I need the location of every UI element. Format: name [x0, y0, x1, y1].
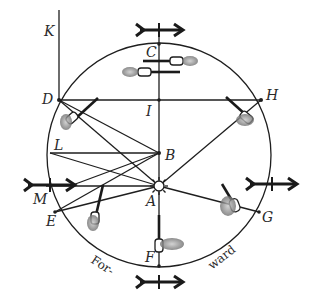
line-m-b: [70, 153, 159, 186]
candle-flame-icon: [155, 215, 184, 252]
sail-diagram: K C D H I L B M A E G F For- ward: [0, 0, 314, 306]
line-e-a: [55, 186, 159, 212]
line-a-g: [159, 186, 259, 212]
label-b: B: [164, 147, 175, 163]
label-c: C: [146, 44, 157, 60]
point-c: [157, 42, 161, 46]
candle-flame-icon: [220, 184, 241, 216]
line-l-a: [50, 153, 159, 186]
caption-ward: ward: [205, 242, 238, 272]
point-b: [157, 151, 161, 155]
label-d: D: [41, 91, 53, 107]
candle-flame-icon: [226, 97, 254, 126]
point-d: [57, 98, 61, 102]
label-k: K: [43, 23, 56, 39]
label-m: M: [32, 191, 48, 207]
point-g: [257, 210, 261, 214]
label-h: H: [265, 87, 279, 103]
label-l: L: [53, 137, 63, 153]
label-f: F: [144, 249, 156, 265]
line-d-b: [59, 100, 159, 153]
label-e: E: [45, 213, 56, 229]
candle-flame-icon: [60, 98, 98, 130]
wind-arrow-left: [24, 178, 75, 192]
label-a: A: [144, 193, 156, 209]
label-i: I: [145, 103, 152, 119]
point-h: [259, 98, 263, 102]
wind-arrow-bottom: [136, 275, 183, 289]
point-f: [157, 264, 161, 268]
label-g: G: [262, 209, 273, 225]
point-i: [157, 98, 161, 102]
candle-flame-icon: [122, 67, 180, 77]
wind-arrow-top: [136, 23, 183, 37]
wind-arrow-right: [246, 177, 297, 191]
